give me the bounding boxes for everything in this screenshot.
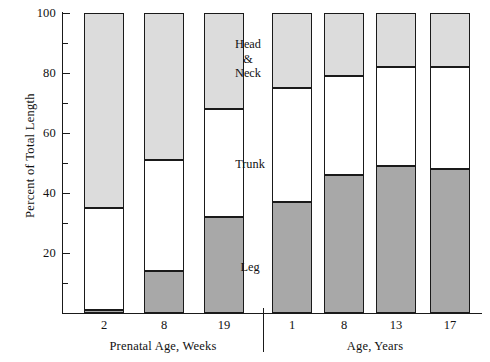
- bar-segment-head-neck: [144, 13, 184, 160]
- y-axis-title: Percent of Total Length: [23, 56, 38, 256]
- y-axis-tick-label: 60: [26, 127, 56, 140]
- x-axis-tick-label: 19: [204, 318, 244, 332]
- bar-segment-leg: [144, 271, 184, 313]
- bar-13: [376, 13, 416, 313]
- segment-annotation-line: Leg: [232, 260, 268, 275]
- segment-annotation-line: &: [228, 52, 268, 67]
- bar-segment-head-neck: [84, 13, 124, 208]
- bar-segment-trunk: [144, 160, 184, 271]
- x-axis-tick-label: 8: [324, 318, 364, 332]
- bar-2: [84, 13, 124, 313]
- bar-segment-trunk: [324, 76, 364, 175]
- x-axis-tick-label: 17: [430, 318, 470, 332]
- bar-segment-trunk: [376, 67, 416, 166]
- segment-annotation-trunk: Trunk: [226, 157, 274, 172]
- y-axis-tick-label: 40: [26, 187, 56, 200]
- bar-segment-head-neck: [324, 13, 364, 76]
- segment-annotation-line: Trunk: [226, 157, 274, 172]
- bar-1: [272, 13, 312, 313]
- bar-segment-leg: [324, 175, 364, 313]
- y-axis-tick-label: 100: [26, 7, 56, 20]
- x-axis-group-label: Prenatal Age, Weeks: [78, 339, 248, 353]
- bar-segment-leg: [272, 202, 312, 313]
- bar-8: [144, 13, 184, 313]
- y-axis-tick-label: 20: [26, 247, 56, 260]
- bar-8: [324, 13, 364, 313]
- bar-segment-head-neck: [376, 13, 416, 67]
- segment-annotation-line: Neck: [228, 66, 268, 81]
- x-axis-tick-label: 2: [84, 318, 124, 332]
- x-axis-tick-label: 8: [144, 318, 184, 332]
- segment-annotation-line: Head: [228, 37, 268, 52]
- group-divider: [263, 308, 264, 352]
- bar-segment-trunk: [430, 67, 470, 169]
- bar-segment-head-neck: [272, 13, 312, 88]
- segment-annotation-head-neck: Head&Neck: [228, 37, 268, 81]
- x-axis-group-label: Age, Years: [290, 339, 460, 353]
- bar-segment-leg: [430, 169, 470, 313]
- bar-segment-trunk: [272, 88, 312, 202]
- segment-annotation-leg: Leg: [232, 260, 268, 275]
- y-axis-tick-label: 80: [26, 67, 56, 80]
- bar-segment-trunk: [84, 208, 124, 310]
- bar-segment-leg: [376, 166, 416, 313]
- bar-17: [430, 13, 470, 313]
- x-axis-tick-label: 1: [272, 318, 312, 332]
- bar-segment-head-neck: [430, 13, 470, 67]
- x-axis-tick-label: 13: [376, 318, 416, 332]
- bar-segment-leg: [84, 310, 124, 313]
- chart-figure: Percent of Total Length 20406080100 2819…: [0, 0, 490, 362]
- x-axis-line: [62, 313, 482, 314]
